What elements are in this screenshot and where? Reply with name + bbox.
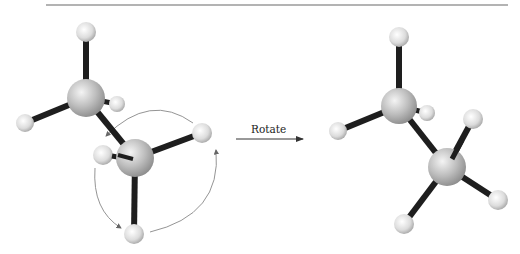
hydrogen-atom	[488, 190, 508, 210]
hydrogen-atom	[16, 114, 34, 132]
hydrogen-atom	[329, 122, 347, 140]
carbon-atom	[428, 148, 466, 186]
bonds	[338, 37, 498, 224]
carbon-atom	[381, 88, 417, 124]
hydrogen-atom	[93, 145, 113, 165]
hydrogen-atom	[389, 27, 409, 47]
carbon-atom	[67, 79, 105, 117]
hydrogen-atom	[394, 214, 414, 234]
hydrogen-atom	[192, 123, 212, 143]
molecule-before	[16, 22, 216, 244]
arc-left	[95, 168, 121, 228]
hydrogen-atom	[124, 224, 144, 244]
hydrogen-atom	[76, 22, 96, 42]
hydrogen-atom	[109, 96, 125, 112]
hydrogen-atom	[463, 109, 483, 129]
bonds	[25, 32, 202, 234]
rotate-label: Rotate	[251, 123, 286, 135]
molecule-after	[329, 27, 508, 234]
arc-top	[106, 110, 193, 136]
arc-right	[150, 150, 216, 232]
hydrogen-atom	[419, 105, 435, 121]
